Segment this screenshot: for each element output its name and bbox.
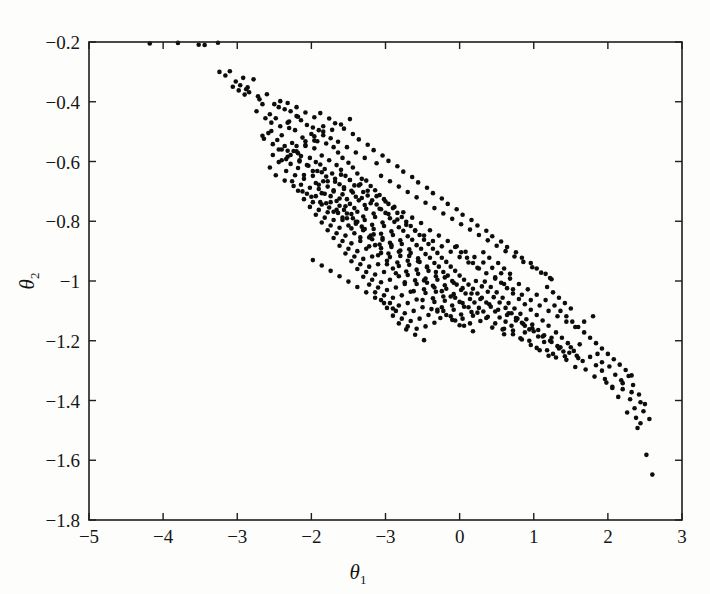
scatter-point <box>276 105 281 110</box>
scatter-point <box>288 162 293 167</box>
scatter-point <box>316 128 321 133</box>
scatter-point <box>414 267 419 272</box>
scatter-point <box>401 229 406 234</box>
scatter-point <box>365 188 370 193</box>
scatter-point <box>394 285 399 290</box>
scatter-points-layer <box>147 41 654 477</box>
scatter-point <box>448 264 453 269</box>
scatter-point <box>471 286 476 291</box>
scatter-point <box>623 368 628 373</box>
scatter-point <box>278 99 283 104</box>
scatter-point <box>358 239 363 244</box>
scatter-point <box>407 254 412 259</box>
scatter-point <box>432 261 437 266</box>
scatter-point <box>299 183 304 188</box>
scatter-point <box>325 228 330 233</box>
scatter-point <box>339 122 344 127</box>
scatter-point <box>311 174 316 179</box>
scatter-point <box>576 356 581 361</box>
scatter-point <box>600 346 605 351</box>
scatter-point <box>392 205 397 210</box>
scatter-point <box>534 266 539 271</box>
scatter-point <box>275 138 280 143</box>
scatter-point <box>481 309 486 314</box>
scatter-point <box>499 271 504 276</box>
scatter-point <box>314 212 319 217</box>
scatter-point <box>490 266 495 271</box>
scatter-point <box>217 70 222 75</box>
scatter-point <box>448 249 453 254</box>
scatter-point <box>463 291 468 296</box>
scatter-point <box>312 138 317 143</box>
scatter-point <box>282 178 287 183</box>
scatter-point <box>328 223 333 228</box>
scatter-point <box>330 171 335 176</box>
scatter-point <box>285 148 290 153</box>
scatter-point <box>478 297 483 302</box>
scatter-point <box>628 397 633 402</box>
scatter-point <box>342 185 347 190</box>
scatter-point <box>336 139 341 144</box>
scatter-point <box>268 112 273 117</box>
scatter-point <box>469 218 474 223</box>
scatter-point <box>316 208 321 213</box>
scatter-point <box>592 374 597 379</box>
scatter-point <box>432 321 437 326</box>
scatter-point <box>361 257 366 262</box>
scatter-point <box>383 199 388 204</box>
scatter-point <box>466 305 471 310</box>
scatter-point <box>475 266 480 271</box>
scatter-point <box>563 301 568 306</box>
scatter-point <box>521 260 526 265</box>
axis-ticks <box>89 42 682 520</box>
scatter-point <box>528 261 533 266</box>
scatter-point <box>423 291 428 296</box>
scatter-point <box>391 295 396 300</box>
scatter-point <box>269 129 274 134</box>
scatter-point <box>351 190 356 195</box>
scatter-point <box>466 282 471 287</box>
scatter-point <box>343 174 348 179</box>
y-axis-title: θ2 <box>15 273 42 290</box>
scatter-point <box>428 228 433 233</box>
scatter-point <box>534 313 539 318</box>
scatter-point <box>487 255 492 260</box>
scatter-point <box>499 239 504 244</box>
scatter-point <box>494 290 499 295</box>
scatter-point <box>368 184 373 189</box>
scatter-point <box>305 123 310 128</box>
scatter-point <box>309 194 314 199</box>
scatter-point <box>545 285 550 290</box>
scatter-point <box>355 209 360 214</box>
scatter-point <box>314 194 319 199</box>
scatter-point <box>471 329 476 334</box>
scatter-point <box>357 183 362 188</box>
scatter-point <box>288 109 293 114</box>
scatter-point <box>328 194 333 199</box>
x-tick-label: −5 <box>79 526 99 547</box>
scatter-point <box>457 273 462 278</box>
scatter-point <box>408 319 413 324</box>
scatter-point <box>355 285 360 290</box>
scatter-point <box>339 172 344 177</box>
x-tick-label: 1 <box>529 526 539 547</box>
scatter-point <box>462 304 467 309</box>
scatter-point <box>376 262 381 267</box>
scatter-point <box>502 332 507 337</box>
scatter-point <box>367 235 372 240</box>
scatter-point <box>423 200 428 205</box>
scatter-point <box>337 196 342 201</box>
scatter-point <box>419 246 424 251</box>
scatter-point <box>373 290 378 295</box>
scatter-point <box>503 319 508 324</box>
scatter-point <box>569 345 574 350</box>
scatter-point <box>462 324 467 329</box>
y-tick-label: −0.2 <box>46 32 80 53</box>
scatter-point <box>629 373 634 378</box>
scatter-point <box>287 126 292 131</box>
scatter-point <box>371 148 376 153</box>
scatter-point <box>546 353 551 358</box>
scatter-point <box>491 295 496 300</box>
scatter-point <box>382 293 387 298</box>
scatter-point <box>405 258 410 263</box>
